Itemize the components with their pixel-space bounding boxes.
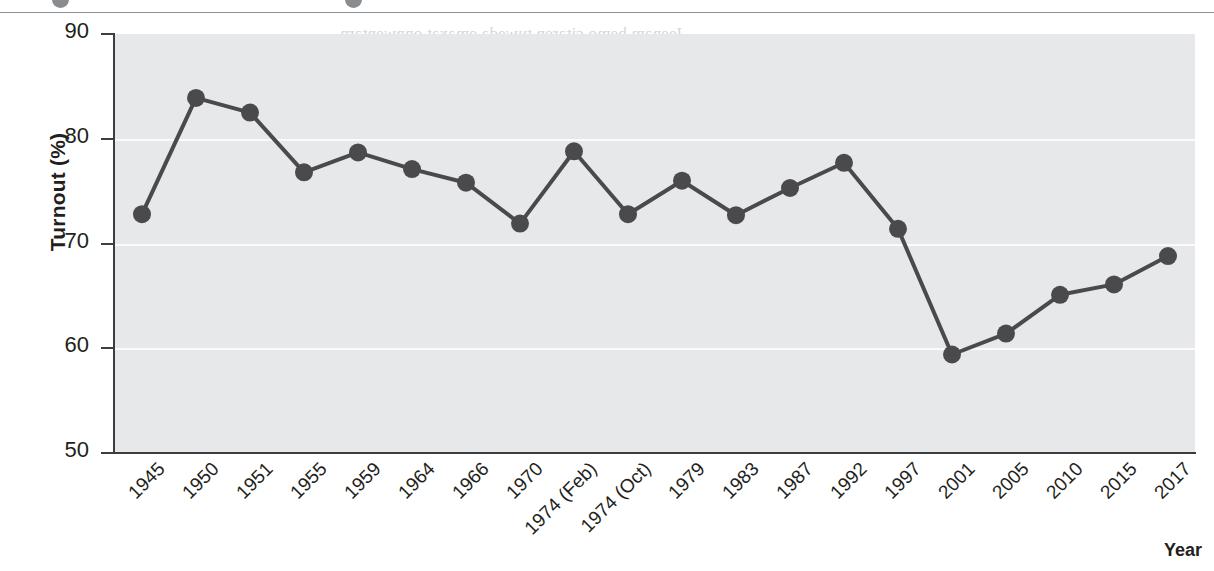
turnout-line-chart: Turnout (%) 5060708090 19451950195119551… [0, 0, 1214, 571]
data-point [295, 163, 313, 181]
data-point [241, 104, 259, 122]
previous-figure-marker [345, 0, 362, 8]
data-point [133, 205, 151, 223]
data-point [943, 346, 961, 364]
data-point [673, 172, 691, 190]
data-point [835, 154, 853, 172]
previous-figure-marker [52, 0, 69, 8]
x-axis-title: Year [1164, 540, 1202, 561]
data-point [457, 174, 475, 192]
data-point [349, 143, 367, 161]
data-point [1051, 286, 1069, 304]
data-point [727, 206, 745, 224]
data-point [997, 325, 1015, 343]
previous-figure-axis [0, 12, 1214, 13]
data-point [1159, 247, 1177, 265]
data-point [1105, 275, 1123, 293]
data-point [511, 215, 529, 233]
turnout-series-line [142, 98, 1168, 355]
data-point [619, 205, 637, 223]
data-point [889, 220, 907, 238]
data-point [403, 160, 421, 178]
data-point [781, 179, 799, 197]
data-point [565, 142, 583, 160]
data-point [187, 89, 205, 107]
series-layer [0, 0, 1214, 571]
previous-figure-strip [0, 0, 1214, 16]
